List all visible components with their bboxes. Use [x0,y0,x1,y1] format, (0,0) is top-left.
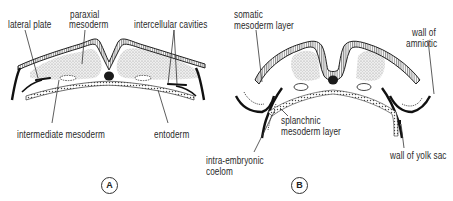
label-wall-of-amniotic-line2: amniotic [406,38,437,49]
panel-a-drawing [12,30,205,123]
label-intra-embryonic-coelom-line1: intra-embryonic [206,155,264,166]
label-intercellular-cavities: intercellular cavities [134,19,207,30]
label-wall-of-yolk-sac: wall of yolk sac [390,150,446,161]
label-somatic-mesoderm-line2: mesoderm layer [234,20,294,31]
label-splanchnic-mesoderm-line2: mesoderm layer [281,126,341,137]
label-lateral-plate: lateral plate [8,19,51,30]
label-paraxial-mesoderm-line2: mesoderm [69,19,108,30]
label-intra-embryonic-coelom-line2: coelom [206,166,233,177]
panel-tag-b: B [291,177,308,194]
label-wall-of-amniotic-line1: wall of [412,27,436,38]
panel-tag-a: A [101,177,118,194]
label-somatic-mesoderm-line1: somatic [234,9,263,20]
embryo-cross-section-figure: lateral plate paraxial mesoderm intercel… [0,0,453,201]
label-entoderm: entoderm [154,129,189,140]
label-intermediate-mesoderm: intermediate mesoderm [17,129,105,140]
label-splanchnic-mesoderm-line1: splanchnic [281,115,321,126]
